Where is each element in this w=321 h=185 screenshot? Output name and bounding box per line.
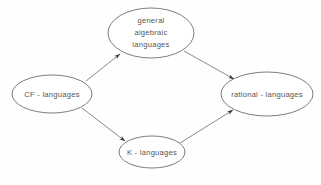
- node-label-general-line1: general: [137, 16, 164, 25]
- edge-cf-to-general: [86, 54, 120, 81]
- edge-cf-to-k: [82, 108, 125, 141]
- diagram-canvas: general algebraic languages CF - languag…: [0, 0, 321, 185]
- node-cf-languages[interactable]: CF - languages: [12, 75, 92, 113]
- edge-general-to-rational: [184, 51, 234, 79]
- language-hierarchy-diagram: general algebraic languages CF - languag…: [0, 0, 321, 185]
- node-label-cf-languages: CF - languages: [24, 90, 79, 99]
- node-rational-languages[interactable]: rational - languages: [221, 72, 313, 116]
- edge-group: [82, 51, 234, 143]
- node-label-general-line3: languages: [132, 40, 169, 49]
- node-k-languages[interactable]: K - languages: [119, 136, 185, 168]
- node-label-rational-languages: rational - languages: [231, 90, 303, 99]
- node-general-algebraic-languages[interactable]: general algebraic languages: [108, 8, 194, 58]
- node-label-general-line2: algebraic: [134, 28, 167, 37]
- edge-k-to-rational: [180, 110, 233, 143]
- node-label-k-languages: K - languages: [127, 148, 177, 157]
